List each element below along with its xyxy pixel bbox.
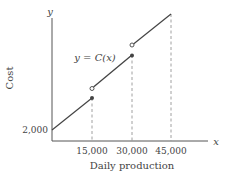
filled-point-15000 [90,96,94,100]
y-axis-label: Cost [4,67,15,90]
x-tick-30000: 30,000 [116,146,148,156]
y-tick-2000: 2,000 [22,125,48,135]
function-label: y = C(x) [73,52,116,63]
y-axis-var: y [46,6,53,17]
x-axis-var: x [213,136,219,147]
filled-point-30000 [130,54,134,58]
cost-chart: y x Cost Daily production y = C(x) 2,000… [0,0,231,179]
x-tick-15000: 15,000 [76,146,108,156]
open-point-15000 [90,87,94,91]
x-tick-45000: 45,000 [155,146,187,156]
segment-3 [134,14,172,44]
x-axis-label: Daily production [90,160,175,171]
segment-1 [52,98,92,130]
open-point-30000 [130,43,134,47]
